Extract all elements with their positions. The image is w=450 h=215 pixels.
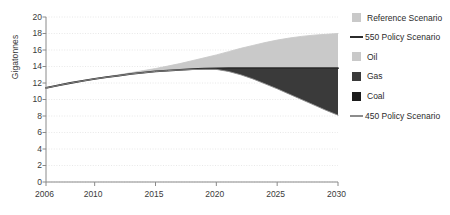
- stacked-bands: [46, 34, 338, 116]
- legend-item-coal[interactable]: Coal: [352, 86, 450, 106]
- legend-swatch-box-icon: [352, 72, 361, 81]
- legend-label: 450 Policy Scenario: [365, 112, 440, 121]
- emissions-area-chart: Gigatonnes 02468101214161820 20062010201…: [0, 0, 450, 215]
- legend-item-450-policy-scenario[interactable]: 450 Policy Scenario: [352, 106, 450, 126]
- legend-label: Coal: [367, 92, 384, 101]
- band-gas: [46, 68, 338, 115]
- legend-label: Gas: [367, 72, 383, 81]
- legend-item-550-policy-scenario[interactable]: 550 Policy Scenario: [352, 28, 450, 48]
- legend-swatch-box-icon: [352, 92, 361, 101]
- legend-label: Reference Scenario: [367, 14, 442, 23]
- legend-swatch-line-icon: [350, 36, 363, 38]
- legend-label: Oil: [367, 53, 377, 62]
- legend-swatch-box-icon: [352, 13, 361, 22]
- legend-item-oil[interactable]: Oil: [352, 47, 450, 67]
- legend-swatch-line-icon: [350, 115, 363, 117]
- legend: Reference Scenario550 Policy ScenarioOil…: [352, 8, 450, 126]
- legend-item-gas[interactable]: Gas: [352, 67, 450, 87]
- legend-label: 550 Policy Scenario: [365, 33, 440, 42]
- legend-item-reference-scenario[interactable]: Reference Scenario: [352, 8, 450, 28]
- legend-swatch-box-icon: [352, 52, 361, 61]
